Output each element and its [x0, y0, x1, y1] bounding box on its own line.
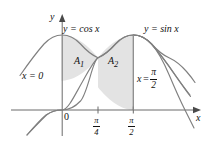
tick-pi2-denominator: 2 [128, 127, 134, 137]
right-boundary-denominator: 2 [150, 80, 157, 91]
figure-container: y x 0 y = cos x y = sin x A1 A2 x = 0 x=… [0, 0, 210, 152]
region-a2-subscript: 2 [114, 60, 118, 69]
right-boundary-equals: = [142, 74, 149, 84]
right-boundary-fraction: π2 [150, 68, 157, 90]
x-tick-label-pi-over-2: π2 [128, 116, 135, 136]
tick-pi2-numerator: π [128, 116, 134, 126]
right-boundary-label: x=π2 [137, 68, 157, 90]
right-boundary-numerator: π [150, 68, 157, 79]
left-boundary-label: x = 0 [22, 71, 43, 81]
y-axis-label: y [50, 12, 54, 22]
sine-curve-label: y = sin x [144, 24, 179, 34]
right-boundary-variable: x [137, 74, 141, 84]
origin-label: 0 [64, 112, 69, 122]
shaded-region-a2 [98, 35, 133, 110]
region-a1-label: A1 [74, 56, 84, 69]
region-a2-label: A2 [108, 56, 118, 69]
region-a1-subscript: 1 [80, 60, 84, 69]
cosine-curve-label: y = cos x [63, 24, 99, 34]
tick-pi4-denominator: 4 [93, 127, 99, 137]
y-axis-arrowhead [59, 14, 65, 22]
x-tick-label-pi-over-4: π4 [93, 116, 100, 136]
x-axis-label: x [196, 113, 200, 123]
tick-pi4-numerator: π [93, 116, 99, 126]
